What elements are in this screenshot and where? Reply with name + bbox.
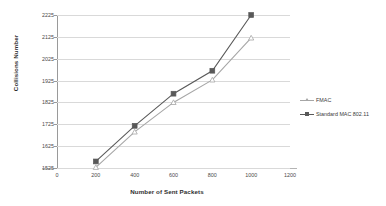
- legend-item-0[interactable]: FMAC: [300, 93, 386, 107]
- data-point-marker: [171, 91, 176, 96]
- data-point-marker: [249, 35, 254, 40]
- chart-figure: Collisions Number 1525162517251825192520…: [0, 0, 386, 206]
- data-point-marker: [171, 100, 176, 105]
- data-point-marker: [210, 68, 215, 73]
- data-point-marker: [93, 159, 98, 164]
- x-axis-title: Number of Sent Packets: [44, 188, 290, 195]
- series-line-1: [96, 15, 251, 161]
- legend-swatch-icon: [300, 96, 314, 104]
- legend-label: FMAC: [316, 96, 331, 104]
- chart-legend: FMACStandard MAC 802.11: [300, 93, 386, 121]
- data-point-marker: [132, 123, 137, 128]
- legend-item-1[interactable]: Standard MAC 802.11: [300, 107, 386, 121]
- legend-label: Standard MAC 802.11: [316, 110, 369, 118]
- legend-swatch-icon: [300, 110, 314, 118]
- data-point-marker: [249, 13, 254, 18]
